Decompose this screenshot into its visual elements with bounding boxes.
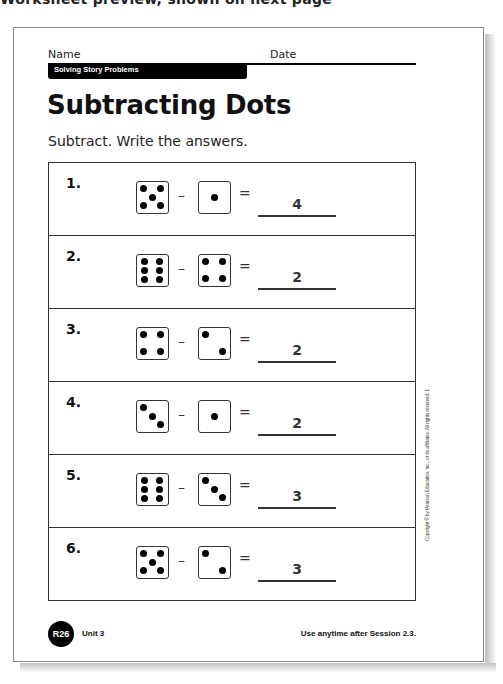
die-pip-icon	[157, 202, 164, 209]
die-pip-icon	[219, 348, 226, 355]
die-pip-icon	[140, 202, 147, 209]
answer-blank[interactable]	[258, 288, 336, 290]
die-pip-icon	[156, 495, 163, 502]
die-pip-icon	[149, 194, 156, 201]
cropped-caption: Worksheet preview, shown on next page	[0, 0, 503, 8]
die-pip-icon	[140, 550, 147, 557]
session-note: Use anytime after Session 2.3.	[301, 629, 416, 638]
die-pip-icon	[156, 486, 163, 493]
minus-sign: –	[178, 479, 185, 495]
subtrahend-die-icon	[198, 473, 231, 506]
die-pip-icon	[140, 404, 147, 411]
die-pip-icon	[202, 258, 209, 265]
die-pip-icon	[157, 567, 164, 574]
problem-row: 4.–=2	[49, 382, 415, 455]
die-pip-icon	[141, 495, 148, 502]
die-pip-icon	[219, 258, 226, 265]
subtrahend-die-icon	[198, 327, 231, 360]
problem-number: 3.	[66, 321, 81, 337]
answer-blank[interactable]	[258, 580, 336, 582]
equals-sign: =	[239, 550, 251, 566]
problem-row: 1.–=4	[49, 163, 415, 236]
die-pip-icon	[211, 194, 218, 201]
page-shadow-bottom	[20, 663, 496, 673]
name-label: Name	[48, 48, 80, 61]
equals-sign: =	[239, 477, 251, 493]
die-pip-icon	[157, 550, 164, 557]
die-pip-icon	[141, 477, 148, 484]
die-pip-icon	[202, 550, 209, 557]
section-banner-text: Solving Story Problems	[54, 65, 139, 74]
subtrahend-die-icon	[198, 546, 231, 579]
answer-blank[interactable]	[258, 215, 336, 217]
problem-row: 6.–=3	[49, 528, 415, 601]
minuend-die-icon	[136, 546, 169, 579]
answer-blank[interactable]	[258, 507, 336, 509]
minus-sign: –	[178, 406, 185, 422]
die-pip-icon	[219, 567, 226, 574]
page-title: Subtracting Dots	[47, 90, 291, 120]
die-pip-icon	[140, 348, 147, 355]
answer-blank[interactable]	[258, 361, 336, 363]
subtrahend-die-icon	[198, 400, 231, 433]
equals-sign: =	[239, 258, 251, 274]
die-pip-icon	[211, 413, 218, 420]
section-banner: Solving Story Problems	[48, 63, 247, 79]
answer-blank[interactable]	[258, 434, 336, 436]
problem-number: 4.	[66, 394, 81, 410]
minuend-die-icon	[136, 254, 169, 287]
die-pip-icon	[140, 567, 147, 574]
page-badge: R26	[48, 621, 74, 647]
problem-number: 6.	[66, 540, 81, 556]
subtrahend-die-icon	[198, 181, 231, 214]
problems-table: 1.–=42.–=23.–=24.–=25.–=36.–=3	[48, 162, 416, 601]
answer-value: 2	[258, 269, 336, 285]
die-pip-icon	[141, 276, 148, 283]
die-pip-icon	[156, 267, 163, 274]
problem-row: 2.–=2	[49, 236, 415, 309]
answer-value: 3	[258, 488, 336, 504]
die-pip-icon	[157, 331, 164, 338]
minuend-die-icon	[136, 181, 169, 214]
answer-value: 3	[258, 561, 336, 577]
equals-sign: =	[239, 331, 251, 347]
die-pip-icon	[219, 494, 226, 501]
die-pip-icon	[149, 559, 156, 566]
problem-row: 3.–=2	[49, 309, 415, 382]
instructions: Subtract. Write the answers.	[48, 133, 248, 149]
die-pip-icon	[140, 331, 147, 338]
die-pip-icon	[219, 275, 226, 282]
die-pip-icon	[156, 258, 163, 265]
die-pip-icon	[156, 477, 163, 484]
copyright-notice: Copyright © by Pearson Education, Inc., …	[425, 389, 430, 541]
die-pip-icon	[149, 413, 156, 420]
die-pip-icon	[202, 477, 209, 484]
equals-sign: =	[239, 404, 251, 420]
die-pip-icon	[202, 275, 209, 282]
problem-row: 5.–=3	[49, 455, 415, 528]
answer-value: 2	[258, 415, 336, 431]
minus-sign: –	[178, 260, 185, 276]
die-pip-icon	[211, 486, 218, 493]
die-pip-icon	[141, 267, 148, 274]
subtrahend-die-icon	[198, 254, 231, 287]
problem-number: 2.	[66, 248, 81, 264]
problem-number: 5.	[66, 467, 81, 483]
date-label: Date	[270, 48, 296, 61]
die-pip-icon	[156, 276, 163, 283]
minuend-die-icon	[136, 473, 169, 506]
answer-value: 2	[258, 342, 336, 358]
minuend-die-icon	[136, 400, 169, 433]
equals-sign: =	[239, 185, 251, 201]
minus-sign: –	[178, 333, 185, 349]
page-shadow-right	[485, 34, 496, 670]
die-pip-icon	[141, 486, 148, 493]
die-pip-icon	[157, 348, 164, 355]
minuend-die-icon	[136, 327, 169, 360]
die-pip-icon	[157, 185, 164, 192]
die-pip-icon	[140, 185, 147, 192]
answer-value: 4	[258, 196, 336, 212]
die-pip-icon	[202, 331, 209, 338]
die-pip-icon	[141, 258, 148, 265]
problem-number: 1.	[66, 175, 81, 191]
